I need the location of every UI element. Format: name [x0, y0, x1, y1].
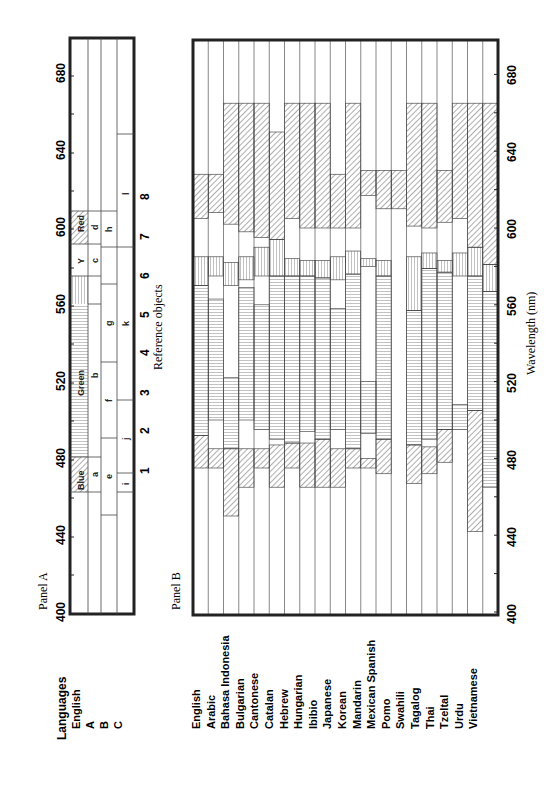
- red-band: [330, 174, 345, 228]
- language-column: [361, 40, 376, 615]
- red-band: [391, 170, 406, 208]
- svg-text:2: 2: [138, 427, 152, 434]
- yellow-band: [254, 247, 269, 276]
- language-column: [285, 40, 300, 615]
- wavelength-axis-label: Wavelength (nm): [524, 292, 538, 375]
- language-column: [391, 40, 406, 615]
- svg-text:l: l: [121, 192, 131, 195]
- yellow-band: [468, 247, 483, 276]
- language-column: [208, 40, 223, 615]
- yellow-band: [407, 257, 422, 311]
- language-label: Tagalog: [409, 688, 421, 729]
- yellow-band: [376, 261, 391, 276]
- panel-a-axis-ticks: 400 440 480 520 560 600 640 680: [54, 63, 68, 622]
- green-band: [193, 286, 208, 436]
- svg-text:7: 7: [138, 233, 152, 240]
- green-band: [483, 291, 498, 487]
- language-column: [483, 40, 498, 615]
- green-band: [452, 405, 467, 430]
- red-band: [315, 103, 330, 228]
- language-label: Bahasa Indonesia: [219, 635, 231, 729]
- green-band: [208, 299, 223, 420]
- svg-text:440: 440: [505, 527, 519, 547]
- red-band: [422, 103, 437, 228]
- blue-band: [437, 430, 452, 463]
- svg-text:3: 3: [138, 389, 152, 396]
- red-band: [239, 103, 254, 232]
- yellow-band: [452, 253, 467, 276]
- blue-band: [361, 458, 376, 468]
- language-column: [193, 40, 208, 615]
- svg-text:8: 8: [138, 193, 152, 200]
- yellow-band: [300, 261, 315, 276]
- language-column: [452, 40, 467, 615]
- yellow-band: [285, 259, 300, 276]
- green-band: [437, 272, 452, 429]
- blue-band: [300, 443, 315, 487]
- red-band: [452, 103, 467, 218]
- blue-band: [193, 435, 208, 468]
- yellow-band: [330, 257, 345, 280]
- yellow-band: [437, 261, 452, 273]
- blue-band: [269, 445, 284, 487]
- red-band: [285, 103, 300, 218]
- svg-text:400: 400: [505, 604, 519, 624]
- reference-objects-label: Reference objects: [151, 284, 165, 370]
- green-band: [224, 378, 239, 449]
- language-column: [300, 40, 315, 615]
- green-band: [269, 276, 284, 439]
- red-band: [361, 170, 376, 195]
- language-label: Mandarin: [351, 680, 363, 729]
- yellow-band: [224, 263, 239, 286]
- language-column: [315, 40, 330, 615]
- svg-text:e: e: [104, 474, 114, 479]
- svg-text:520: 520: [505, 373, 519, 393]
- yellow-band: [193, 257, 208, 286]
- label-blue: Blue: [76, 470, 86, 490]
- svg-text:640: 640: [54, 140, 68, 160]
- svg-text:640: 640: [505, 142, 519, 162]
- svg-text:680: 680: [54, 63, 68, 83]
- svg-text:c: c: [90, 258, 100, 263]
- blue-band: [407, 445, 422, 483]
- language-label: Vietnamese: [467, 668, 479, 729]
- blue-band: [376, 439, 391, 474]
- svg-text:400: 400: [54, 602, 68, 622]
- svg-text:5: 5: [138, 311, 152, 318]
- languages-header: Languages: [55, 676, 69, 740]
- svg-text:520: 520: [54, 371, 68, 391]
- language-label: Swahili: [394, 691, 406, 729]
- yellow-band: [315, 261, 330, 278]
- language-label: Urdu: [453, 703, 465, 729]
- blue-band: [285, 443, 300, 468]
- svg-text:k: k: [121, 320, 131, 326]
- language-column: [437, 40, 452, 615]
- panel-a: Panel A 400 440 480 520 560 600 640 680: [36, 38, 165, 622]
- red-band: [437, 170, 452, 222]
- blue-band: [224, 449, 239, 516]
- green-band: [239, 288, 254, 420]
- red-band: [468, 103, 483, 247]
- red-band: [376, 170, 391, 208]
- reference-numbers: 1 2 3 4 5 6 7 8: [138, 193, 152, 474]
- language-column: [376, 40, 391, 615]
- green-band: [346, 274, 361, 449]
- green-band: [300, 276, 315, 432]
- language-label: Cantonese: [248, 673, 260, 729]
- yellow-band: [361, 259, 376, 267]
- svg-text:English: English: [70, 689, 82, 729]
- panel-b-axis-ticks: 400 440 480 520 560 600 640 680: [505, 65, 519, 624]
- yellow-band: [422, 253, 437, 268]
- green-band: [376, 276, 391, 439]
- blue-band: [422, 447, 437, 474]
- label-y: Y: [76, 258, 86, 264]
- svg-text:C: C: [112, 721, 124, 729]
- panel-b: Panel B 400 440 480 520 560 600 640 680 …: [169, 40, 538, 624]
- panel-b-row-labels: EnglishArabicBahasa IndonesiaBulgarianCa…: [190, 635, 479, 729]
- language-column: [422, 40, 437, 615]
- svg-text:440: 440: [54, 525, 68, 545]
- language-column: [468, 40, 483, 615]
- yellow-band: [269, 240, 284, 276]
- language-column: [330, 40, 345, 615]
- svg-text:b: b: [90, 372, 100, 378]
